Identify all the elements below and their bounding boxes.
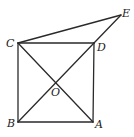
label-d: D (96, 41, 106, 54)
segment-ce (18, 15, 121, 43)
label-e: E (121, 7, 130, 20)
geometry-diagram: C D E O B A (0, 0, 134, 137)
label-b: B (6, 117, 15, 130)
label-c: C (6, 37, 15, 50)
label-o: O (51, 86, 60, 99)
segment-da (93, 43, 94, 122)
label-a: A (94, 118, 103, 131)
